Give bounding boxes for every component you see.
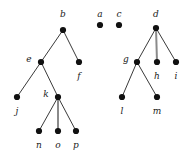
edge-g-l [122,62,137,97]
node-l [119,94,125,100]
node-g [134,59,140,65]
node-p [73,128,79,134]
edge-d-i [156,28,176,62]
node-o [55,128,61,134]
graph-canvas [0,0,189,154]
node-a [97,22,103,28]
edges-layer [17,28,176,131]
nodes-layer [14,22,179,134]
node-f [76,59,82,65]
edge-e-k [41,62,58,97]
node-c [116,22,122,28]
edge-d-g [137,28,156,62]
edge-e-j [17,62,41,97]
node-i [173,59,179,65]
node-k [55,94,61,100]
node-b [60,27,66,33]
node-d [153,25,159,31]
node-j [14,94,20,100]
edge-k-n [39,97,58,131]
forest-diagram: bacdefghijklmnop [0,0,189,154]
edge-b-f [63,30,79,62]
node-h [154,59,160,65]
node-n [36,128,42,134]
node-e [38,59,44,65]
edge-k-p [58,97,76,131]
edge-b-e [41,30,63,62]
edge-d-h [156,28,157,62]
node-m [154,94,160,100]
edge-g-m [137,62,157,97]
